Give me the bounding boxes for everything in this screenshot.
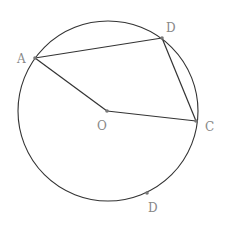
point-a-marker <box>33 56 37 60</box>
segment-ad <box>35 38 162 58</box>
point-c-marker <box>194 119 198 123</box>
label-d-top: D <box>166 21 176 35</box>
label-d-bottom: D <box>148 201 158 215</box>
point-d-top-marker <box>160 36 164 40</box>
label-a: A <box>16 52 26 66</box>
circle-diagram: A D O C D <box>0 0 225 226</box>
label-o: O <box>97 119 107 133</box>
point-o-marker <box>105 109 109 113</box>
segment-dc <box>162 38 196 121</box>
segment-oc <box>107 111 196 121</box>
label-c: C <box>205 120 214 134</box>
segment-ao <box>35 58 107 111</box>
point-d-bottom-marker <box>145 191 149 195</box>
